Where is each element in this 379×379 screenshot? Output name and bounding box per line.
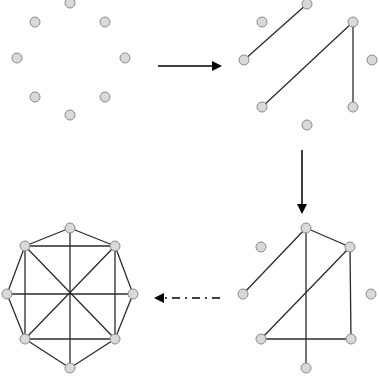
bottom-right-edge [243,228,306,294]
bottom-left-edge [115,294,133,339]
bottom-left-edge [7,246,25,294]
top-left-node [100,92,110,102]
bottom-left-edge [70,228,115,246]
top-right-node [302,120,312,130]
bottom-left-node [110,241,120,251]
bottom-left-node [65,363,75,373]
bottom-right-node [301,363,311,373]
top-right-edge [244,4,307,60]
top-left-node [65,0,75,8]
bottom-left-edge [25,339,70,368]
top-right-node [302,0,312,9]
bottom-left-node [2,289,12,299]
bottom-left-edge [115,246,133,294]
top-left-node [30,92,40,102]
bottom-left-edge [7,294,25,339]
bottom-right-edge [306,228,350,247]
bottom-left-edge [25,228,70,246]
bottom-right-node [238,289,248,299]
top-right-node [348,102,358,112]
bottom-right-node [345,242,355,252]
top-left-node [120,53,130,63]
bottom-right-node [301,223,311,233]
bottom-right-edge [350,247,351,339]
graph-diagram [0,0,379,379]
top-left-node [65,110,75,120]
top-right-node [257,102,267,112]
bottom-left-node [110,334,120,344]
bottom-left-node [65,223,75,233]
top-right-node [257,17,267,27]
top-right-node [239,55,249,65]
top-left-node [12,53,22,63]
bottom-right-node [346,334,356,344]
top-right-node [348,17,358,27]
top-left-node [100,17,110,27]
bottom-left-node [20,241,30,251]
top-right-edge [262,22,353,107]
bottom-left-node [20,334,30,344]
bottom-right-node [256,242,266,252]
top-left-node [30,17,40,27]
bottom-right-node [256,334,266,344]
bottom-right-node [366,289,376,299]
top-right-node [367,55,377,65]
bottom-left-edge [70,339,115,368]
bottom-left-node [128,289,138,299]
